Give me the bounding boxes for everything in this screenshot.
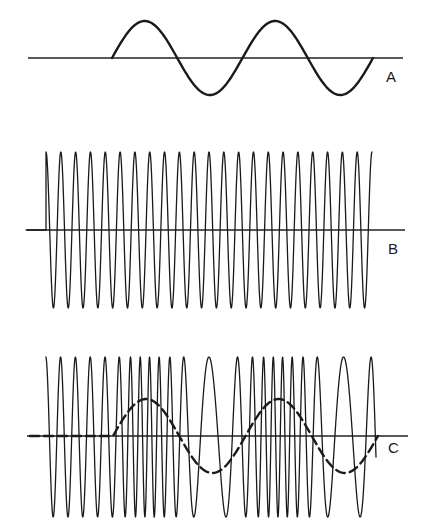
panel-b-carrier-wave: B: [26, 152, 405, 308]
panel-c-label: C: [388, 439, 399, 456]
panel-b-label: B: [388, 240, 398, 257]
panel-a-modulating-signal: A: [28, 21, 403, 95]
panel-a-label: A: [386, 68, 396, 85]
panel-c-fm-wave: C: [27, 357, 408, 517]
frequency-modulation-diagram: A B C: [0, 0, 436, 519]
